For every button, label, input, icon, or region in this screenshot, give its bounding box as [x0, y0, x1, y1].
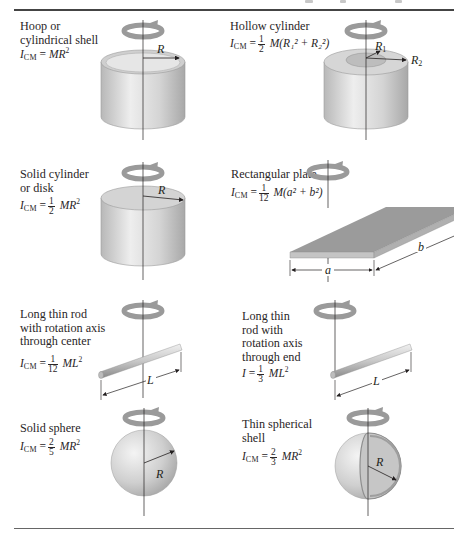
hollow-cylinder-diagram: R1 R2 [322, 20, 432, 140]
dim-label: R [375, 455, 384, 469]
dim-label: R [156, 42, 165, 56]
rod-center-diagram: L [98, 300, 188, 400]
shape-name: Solid cylinder or disk [20, 168, 89, 195]
formula: ICM =112 ML2 [20, 355, 82, 374]
solid-cylinder-diagram: R [95, 162, 185, 280]
formula: ICM = MR2 [20, 48, 69, 62]
top-rule [14, 9, 454, 11]
shape-name: Long thin rod with rotation axis through… [242, 310, 303, 364]
formula: ICM =23 MR2 [242, 448, 302, 467]
shape-name: Solid sphere [20, 422, 81, 436]
dim-label: L [146, 373, 154, 387]
shape-name: Long thin rod with rotation axis through… [20, 308, 105, 349]
spherical-shell-diagram: R [332, 408, 412, 518]
title-fragment [395, 0, 402, 3]
formula: I =13 ML2 [242, 365, 289, 384]
hoop-diagram: R [95, 20, 185, 140]
formula: ICM =25 MR2 [20, 438, 80, 457]
dim-label: b [418, 240, 424, 254]
dim-label: R1 [374, 39, 386, 54]
title-fragment [305, 0, 313, 3]
shape-name: Hoop or cylindrical shell [20, 20, 98, 47]
shape-name: Thin spherical shell [242, 418, 312, 445]
title-fragment [340, 0, 346, 3]
dim-label: L [372, 374, 380, 388]
formula: ICM =12 MR2 [20, 197, 80, 216]
rectangular-plate-diagram: a b [288, 160, 454, 280]
solid-sphere-diagram: R [108, 408, 188, 518]
shape-name: Hollow cylinder [230, 20, 310, 34]
bottom-rule [14, 528, 454, 529]
dim-label: a [325, 263, 331, 277]
dim-label: R [157, 183, 166, 197]
formula: ICM =12 M(R₁² + R₂²) [230, 35, 329, 54]
dim-label: R [155, 467, 164, 481]
rod-end-diagram: L [318, 300, 428, 400]
dim-label: R2 [410, 53, 422, 68]
